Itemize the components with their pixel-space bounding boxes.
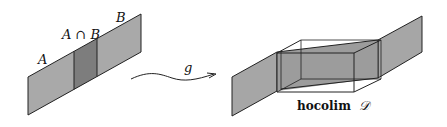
region-intersection: [74, 39, 97, 90]
label-intersection: A ∩ B: [61, 27, 100, 42]
label-map-g: g: [184, 60, 192, 75]
diagram-canvas: A A ∩ B B g hocolim 𝒟: [0, 0, 447, 127]
label-b: B: [115, 10, 126, 25]
left-panel: [232, 52, 277, 116]
label-a: A: [37, 52, 47, 67]
right-panel: [378, 16, 422, 78]
label-hocolim: hocolim 𝒟: [297, 96, 372, 113]
region-a: [28, 51, 74, 115]
map-arrow: [131, 73, 216, 80]
